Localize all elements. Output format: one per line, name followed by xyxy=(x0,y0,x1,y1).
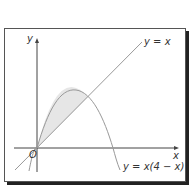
x-axis-label: x xyxy=(173,150,179,161)
line-label: y = x xyxy=(144,36,171,47)
y-axis-arrow-icon xyxy=(35,38,39,43)
y-axis-label: y xyxy=(27,33,33,44)
shaded-region xyxy=(37,87,88,148)
origin-label: O xyxy=(29,149,37,160)
parabola-label: y = x(4 − x) xyxy=(123,161,184,172)
